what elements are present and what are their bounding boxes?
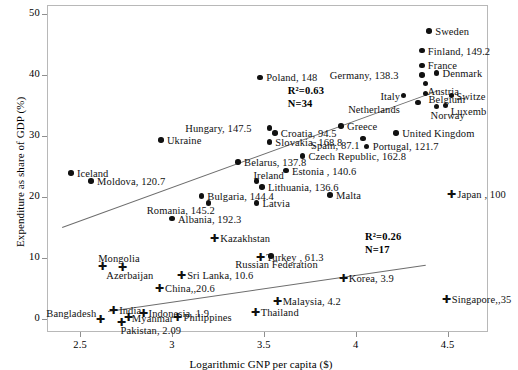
data-point-marker	[339, 274, 347, 282]
data-point-label: Norway	[431, 110, 465, 121]
data-point-label: Moldova, 120.7	[97, 176, 165, 187]
data-point-marker	[447, 190, 455, 198]
y-tick-mark	[42, 14, 47, 15]
r-squared-value: R²=0.26	[365, 230, 402, 243]
data-point-marker	[393, 130, 399, 136]
data-point-marker	[419, 48, 425, 54]
x-tick-label: 4	[336, 339, 376, 350]
data-point-label: Malaysia, 4.2	[283, 296, 341, 307]
upper-group-stats: R²=0.63N=34	[288, 84, 325, 110]
sample-size-value: N=34	[288, 97, 325, 110]
data-point-label: Poland, 148	[266, 72, 317, 83]
data-point-label: Netherlands	[348, 104, 400, 115]
x-tick-mark	[356, 332, 357, 337]
data-point-marker	[327, 192, 333, 198]
y-tick-label: 50	[14, 7, 40, 18]
data-point-label: Sri Lanka, 10.6	[187, 270, 253, 281]
data-point-marker	[199, 193, 205, 199]
data-point-label: Kazakhstan	[220, 233, 270, 244]
data-point-label: Ukraine	[167, 135, 202, 146]
data-point-label: Korea, 3.9	[349, 273, 394, 284]
data-point-marker	[235, 159, 241, 165]
y-tick-mark	[42, 258, 47, 259]
data-point-marker	[272, 130, 278, 136]
data-point-label: Singapore,,35	[452, 294, 512, 305]
y-axis-label: Expenditure as share of GDP (%)	[14, 96, 26, 246]
data-point-label: Azerbaijan	[106, 270, 153, 281]
data-point-marker	[426, 28, 432, 34]
x-axis-label: Logarithmic GNP per capita ($)	[190, 358, 333, 370]
data-point-marker	[442, 295, 450, 303]
data-point-marker	[360, 136, 366, 142]
y-tick-label: 0	[14, 312, 40, 323]
data-point-label: Greece	[347, 121, 377, 132]
data-point-marker	[259, 184, 265, 190]
data-point-label: Estonia , 140.6	[292, 166, 357, 177]
lower-group-stats: R²=0.26N=17	[365, 230, 402, 256]
data-point-marker	[88, 178, 94, 184]
data-point-marker	[256, 253, 264, 261]
plot-frame	[47, 5, 488, 332]
y-tick-mark	[42, 75, 47, 76]
sample-size-value: N=17	[365, 243, 402, 256]
data-point-label: Czech Republic, 162.8	[308, 151, 406, 162]
data-point-marker	[419, 63, 425, 69]
data-point-marker	[68, 170, 74, 176]
x-tick-label: 4.5	[428, 339, 468, 350]
data-point-label: Albania, 192.3	[178, 214, 242, 225]
data-point-marker	[415, 100, 421, 106]
data-point-label: Philippines	[183, 312, 231, 323]
data-point-marker	[210, 234, 218, 242]
r-squared-value: R²=0.63	[288, 84, 325, 97]
data-point-label: Myanmar	[132, 313, 174, 324]
data-point-marker	[273, 297, 281, 305]
data-point-label: Bangladesh	[46, 308, 96, 319]
x-tick-label: 3.5	[244, 339, 284, 350]
data-point-marker	[267, 125, 273, 131]
data-point-label: Malta	[336, 190, 361, 201]
scatter-chart: 01020304050 2.533.544.5 Expenditure as s…	[0, 0, 518, 370]
data-point-label: Denmark	[443, 68, 483, 79]
data-point-label: Finland, 149.2	[428, 46, 490, 57]
data-point-marker	[109, 306, 117, 314]
x-tick-label: 3	[152, 339, 192, 350]
x-tick-mark	[80, 332, 81, 337]
data-point-marker	[155, 284, 163, 292]
data-point-label: Switze	[456, 91, 485, 102]
data-point-marker	[257, 75, 263, 81]
data-point-marker	[96, 315, 104, 323]
data-point-label: Ireland	[253, 170, 283, 181]
y-tick-mark	[42, 197, 47, 198]
x-tick-mark	[264, 332, 265, 337]
data-point-label: Thailand	[261, 307, 299, 318]
data-point-label: Slovakia, 168.8	[275, 137, 342, 148]
data-point-label: Bulgaria, 144.4	[207, 191, 274, 202]
data-point-marker	[419, 72, 425, 78]
x-tick-mark	[448, 332, 449, 337]
data-point-marker	[177, 271, 185, 279]
data-point-marker	[338, 123, 344, 129]
data-point-marker	[251, 308, 259, 316]
data-point-label: Germany, 138.3	[330, 70, 399, 81]
y-tick-mark	[42, 136, 47, 137]
data-point-marker	[267, 139, 273, 145]
y-tick-label: 10	[14, 251, 40, 262]
data-point-marker	[173, 313, 181, 321]
data-point-label: Hungary, 147.5	[185, 123, 251, 134]
data-point-label: China,,20.6	[165, 283, 215, 294]
data-point-label: Turkey , 61.3	[266, 252, 324, 263]
data-point-label: Sweden	[435, 26, 469, 37]
x-tick-label: 2.5	[60, 339, 100, 350]
data-point-label: Japan , 100	[457, 189, 506, 200]
data-point-label: United Kingdom	[402, 128, 474, 139]
data-point-label: Italy	[380, 91, 400, 102]
y-tick-label: 40	[14, 68, 40, 79]
y-tick-mark	[42, 319, 47, 320]
data-point-marker	[158, 137, 164, 143]
data-point-label: Pakistan, 2.09	[121, 325, 182, 336]
